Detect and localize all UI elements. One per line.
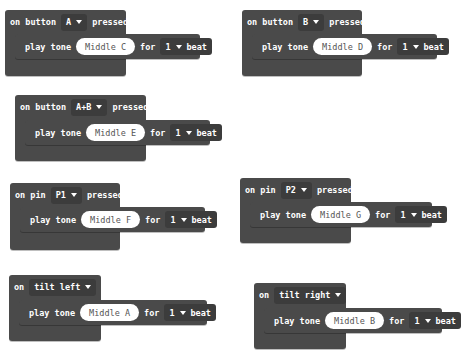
beats-dropdown[interactable]: 1 beat bbox=[170, 124, 222, 141]
dropdown-value: tilt right bbox=[279, 290, 330, 300]
note-picker[interactable]: Middle E bbox=[86, 124, 145, 141]
gesture-dropdown[interactable]: tilt right bbox=[274, 287, 346, 304]
for-label: for bbox=[140, 42, 155, 52]
beats-value: 1 bbox=[170, 215, 175, 225]
caret-down-icon bbox=[313, 20, 319, 24]
play-tone-block[interactable]: play tone Middle G for 1 beat bbox=[250, 202, 432, 227]
button-dropdown[interactable]: B bbox=[298, 14, 324, 31]
event-label: on pin bbox=[245, 185, 276, 195]
play-tone-label: play tone bbox=[35, 128, 81, 138]
caret-down-icon bbox=[181, 218, 187, 222]
button-dropdown[interactable]: A+B bbox=[71, 99, 107, 116]
caret-down-icon bbox=[176, 45, 182, 49]
play-tone-label: play tone bbox=[274, 316, 320, 326]
event-label: on button bbox=[20, 102, 66, 112]
beat-label: beat bbox=[436, 316, 456, 326]
event-suffix: pressed bbox=[112, 102, 148, 112]
event-header: on tilt left bbox=[9, 275, 101, 299]
event-header: on button B pressed bbox=[242, 10, 370, 34]
note-picker[interactable]: Middle F bbox=[81, 211, 140, 228]
dropdown-value: A+B bbox=[76, 102, 91, 112]
beat-label: beat bbox=[197, 128, 217, 138]
for-label: for bbox=[389, 316, 404, 326]
beats-dropdown[interactable]: 1 beat bbox=[409, 312, 461, 329]
caret-down-icon bbox=[335, 293, 341, 297]
for-label: for bbox=[145, 215, 160, 225]
beats-dropdown[interactable]: 1 beat bbox=[160, 38, 212, 55]
beat-label: beat bbox=[191, 308, 211, 318]
play-tone-block[interactable]: play tone Middle D for 1 beat bbox=[252, 34, 437, 59]
play-tone-block[interactable]: play tone Middle A for 1 beat bbox=[19, 300, 207, 325]
play-tone-label: play tone bbox=[29, 308, 75, 318]
play-tone-block[interactable]: play tone Middle C for 1 beat bbox=[15, 34, 200, 59]
beats-dropdown[interactable]: 1 beat bbox=[164, 304, 216, 321]
caret-down-icon bbox=[301, 188, 307, 192]
event-label: on bbox=[14, 282, 24, 292]
for-label: for bbox=[377, 42, 392, 52]
play-tone-label: play tone bbox=[262, 42, 308, 52]
beat-label: beat bbox=[422, 210, 442, 220]
beats-value: 1 bbox=[402, 42, 407, 52]
dropdown-value: A bbox=[66, 17, 71, 27]
event-header: on button A pressed bbox=[5, 10, 133, 34]
caret-down-icon bbox=[85, 285, 91, 289]
beats-value: 1 bbox=[169, 308, 174, 318]
beats-value: 1 bbox=[165, 42, 170, 52]
play-tone-block[interactable]: play tone Middle E for 1 beat bbox=[25, 120, 210, 145]
event-label: on bbox=[259, 290, 269, 300]
caret-down-icon bbox=[76, 20, 82, 24]
event-suffix: pressed bbox=[317, 185, 353, 195]
beats-dropdown[interactable]: 1 beat bbox=[165, 211, 217, 228]
beat-label: beat bbox=[192, 215, 212, 225]
caret-down-icon bbox=[180, 311, 186, 315]
for-label: for bbox=[144, 308, 159, 318]
beat-label: beat bbox=[424, 42, 444, 52]
beats-dropdown[interactable]: 1 beat bbox=[395, 206, 447, 223]
caret-down-icon bbox=[186, 131, 192, 135]
dropdown-value: B bbox=[303, 17, 308, 27]
note-picker[interactable]: Middle B bbox=[325, 312, 384, 329]
play-tone-label: play tone bbox=[260, 210, 306, 220]
event-label: on button bbox=[247, 17, 293, 27]
event-label: on pin bbox=[15, 190, 46, 200]
play-tone-block[interactable]: play tone Middle F for 1 beat bbox=[20, 207, 205, 232]
note-picker[interactable]: Middle C bbox=[76, 38, 135, 55]
event-header: on tilt right bbox=[254, 283, 351, 307]
note-picker[interactable]: Middle G bbox=[311, 206, 370, 223]
note-picker[interactable]: Middle D bbox=[313, 38, 372, 55]
beats-value: 1 bbox=[175, 128, 180, 138]
pin-dropdown[interactable]: P1 bbox=[51, 187, 82, 204]
beats-value: 1 bbox=[414, 316, 419, 326]
for-label: for bbox=[375, 210, 390, 220]
beats-dropdown[interactable]: 1 beat bbox=[397, 38, 449, 55]
note-picker[interactable]: Middle A bbox=[80, 304, 139, 321]
caret-down-icon bbox=[425, 319, 431, 323]
caret-down-icon bbox=[413, 45, 419, 49]
event-suffix: pressed bbox=[92, 17, 128, 27]
event-header: on pin P1 pressed bbox=[10, 183, 128, 207]
event-label: on button bbox=[10, 17, 56, 27]
beat-label: beat bbox=[187, 42, 207, 52]
dropdown-value: tilt left bbox=[34, 282, 80, 292]
caret-down-icon bbox=[71, 193, 77, 197]
for-label: for bbox=[150, 128, 165, 138]
button-dropdown[interactable]: A bbox=[61, 14, 87, 31]
caret-down-icon bbox=[96, 105, 102, 109]
pin-dropdown[interactable]: P2 bbox=[281, 182, 312, 199]
event-header: on pin P2 pressed bbox=[240, 178, 358, 202]
event-header: on button A+B pressed bbox=[15, 95, 153, 119]
dropdown-value: P2 bbox=[286, 185, 296, 195]
beats-value: 1 bbox=[400, 210, 405, 220]
event-suffix: pressed bbox=[87, 190, 123, 200]
play-tone-label: play tone bbox=[25, 42, 71, 52]
dropdown-value: P1 bbox=[56, 190, 66, 200]
caret-down-icon bbox=[411, 213, 417, 217]
event-suffix: pressed bbox=[329, 17, 365, 27]
gesture-dropdown[interactable]: tilt left bbox=[29, 279, 96, 296]
play-tone-block[interactable]: play tone Middle B for 1 beat bbox=[264, 308, 442, 333]
play-tone-label: play tone bbox=[30, 215, 76, 225]
